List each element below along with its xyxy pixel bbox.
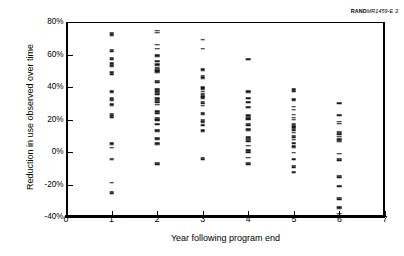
data-point <box>109 105 114 107</box>
x-tick-label: 3 <box>197 214 209 224</box>
data-point <box>246 59 251 61</box>
y-tick-label: -20% <box>44 180 63 189</box>
data-point <box>246 107 251 109</box>
data-point <box>246 141 251 143</box>
x-tick-label: 7 <box>379 214 391 224</box>
data-point <box>337 123 342 125</box>
data-point <box>155 94 160 96</box>
x-tick: 1 <box>112 211 113 217</box>
report-id-number: MR1459- <box>367 8 390 14</box>
data-point <box>109 159 114 161</box>
data-point <box>200 131 205 133</box>
data-point <box>200 122 205 124</box>
x-tick-label: 1 <box>106 214 118 224</box>
data-point <box>200 70 205 72</box>
data-point <box>155 139 160 141</box>
data-point <box>337 153 342 155</box>
data-point <box>246 151 251 153</box>
data-point <box>109 116 114 118</box>
report-id-figure: E.3 <box>390 8 398 14</box>
data-point <box>200 105 205 107</box>
data-point <box>109 100 114 102</box>
y-tick: 80% <box>68 22 73 23</box>
data-point <box>337 208 342 210</box>
data-point <box>246 92 251 94</box>
data-point <box>200 48 205 50</box>
data-point <box>337 159 342 161</box>
data-point <box>155 48 160 50</box>
data-point <box>246 119 251 121</box>
figure-container: RANDMR1459-E.3 -40%-20%0%20%40%60%80% 01… <box>0 0 404 256</box>
data-point <box>109 147 114 149</box>
data-point <box>337 134 342 136</box>
data-point <box>155 56 160 58</box>
data-point <box>246 145 251 147</box>
data-point <box>246 163 251 165</box>
data-point <box>337 198 342 200</box>
data-point <box>155 72 160 74</box>
data-point <box>155 144 160 146</box>
report-id: RANDMR1459-E.3 <box>351 8 398 14</box>
data-point <box>292 137 297 139</box>
data-point <box>292 106 297 108</box>
data-point <box>200 39 205 41</box>
data-point <box>155 131 160 133</box>
data-point <box>292 119 297 121</box>
axis-top-spine <box>66 22 385 23</box>
data-point <box>292 142 297 144</box>
data-point <box>109 51 114 53</box>
data-point <box>246 157 251 159</box>
report-id-brand: RAND <box>351 8 367 14</box>
data-point <box>109 144 114 146</box>
y-axis-title: Reduction in use observed over time <box>25 27 35 207</box>
data-point <box>292 139 297 141</box>
data-point <box>337 185 342 187</box>
y-tick-label: 60% <box>47 50 63 59</box>
data-point <box>292 129 297 131</box>
y-tick-label: 80% <box>47 17 63 26</box>
data-point <box>200 114 205 116</box>
x-tick: 4 <box>248 211 249 217</box>
data-point <box>246 124 251 126</box>
x-tick: 0 <box>66 211 67 217</box>
data-point <box>246 130 251 132</box>
data-point <box>292 114 297 116</box>
x-tick: 5 <box>294 211 295 217</box>
data-point <box>155 81 160 83</box>
x-tick: 3 <box>203 211 204 217</box>
data-point <box>155 60 160 62</box>
y-tick: 0% <box>68 152 73 153</box>
y-tick: 60% <box>68 55 73 56</box>
y-tick: 40% <box>68 87 73 88</box>
data-point <box>155 120 160 122</box>
data-point <box>337 213 342 215</box>
data-point <box>200 78 205 80</box>
data-point <box>337 115 342 117</box>
x-tick-label: 5 <box>288 214 300 224</box>
data-point <box>200 159 205 161</box>
x-tick-label: 2 <box>151 214 163 224</box>
plot-area: -40%-20%0%20%40%60%80% 01234567 <box>66 22 385 217</box>
data-point <box>246 98 251 100</box>
data-point <box>155 102 160 104</box>
x-tick: 7 <box>385 211 386 217</box>
data-point <box>337 136 342 138</box>
data-point <box>337 103 342 105</box>
data-point <box>155 112 160 114</box>
data-point <box>155 104 160 106</box>
x-tick-label: 6 <box>333 214 345 224</box>
y-tick: 20% <box>68 120 73 121</box>
data-point <box>109 92 114 94</box>
data-point <box>109 73 114 75</box>
x-tick: 2 <box>157 211 158 217</box>
data-point <box>292 147 297 149</box>
data-point <box>109 35 114 37</box>
y-tick-label: 0% <box>52 147 64 156</box>
data-point <box>246 102 251 104</box>
data-point <box>200 89 205 91</box>
x-tick-label: 4 <box>242 214 254 224</box>
data-point <box>109 182 114 184</box>
y-tick-label: 20% <box>47 115 63 124</box>
y-tick-label: 40% <box>47 82 63 91</box>
data-point <box>155 124 160 126</box>
